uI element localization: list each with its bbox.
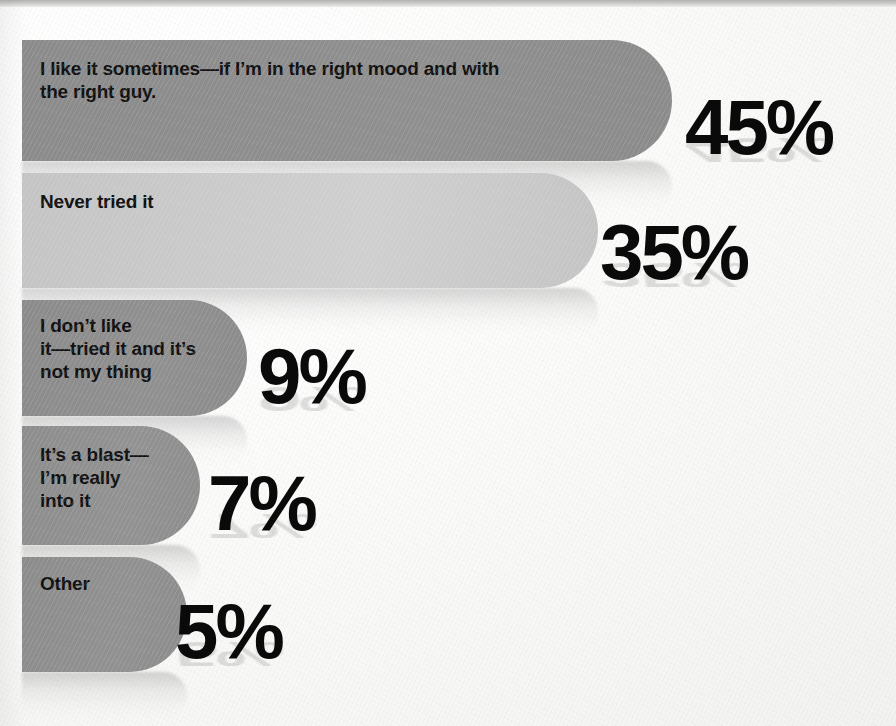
bar-row: Other5%5% <box>0 0 896 726</box>
bar-5[interactable]: Other <box>22 557 187 672</box>
bar-value-label: 5% <box>175 592 282 670</box>
horizontal-bar-chart: I like it sometimes—if I’m in the right … <box>0 0 896 726</box>
poll-result-chart-poster: I like it sometimes—if I’m in the right … <box>0 0 896 726</box>
bar-label: Other <box>40 573 90 596</box>
bar-reflection <box>22 672 187 720</box>
